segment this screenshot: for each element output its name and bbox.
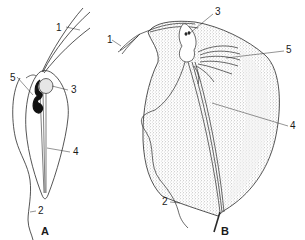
panel-a-organism [13,8,90,240]
panel-a-label-5: 5 [10,73,16,83]
panel-b-figure-label: B [221,226,229,237]
panel-a-label-1: 1 [56,23,62,33]
panel-b-label-5: 5 [286,45,292,55]
panel-a-nucleus [39,79,53,94]
panel-b-flagellum-1 [120,30,150,50]
panel-a-label-3: 3 [71,85,77,95]
illustration-drawing [0,0,305,240]
panel-a-leader-2 [30,211,36,212]
panel-b-organism [112,14,288,232]
panel-a-label-4: 4 [73,147,79,157]
panel-a-leader-5 [17,77,33,95]
panel-a-label-2: 2 [38,206,44,216]
biological-illustration: 1 3 4 5 2 A 1 3 5 4 2 B [0,0,305,240]
panel-a-leader-1 [66,27,80,30]
panel-a-leader-4 [47,148,70,152]
panel-a-flagellum-2 [13,78,33,240]
panel-a-figure-label: A [41,226,49,237]
panel-b-label-4: 4 [290,121,296,131]
panel-a-leader-3 [52,86,68,90]
panel-b-label-1: 1 [107,35,113,45]
panel-a-flagellum-1b [43,12,90,72]
panel-b-label-3: 3 [215,7,221,17]
panel-b-leader-1 [112,40,121,46]
panel-b-label-2: 2 [162,197,168,207]
panel-a-flagellum-1c [44,28,90,73]
